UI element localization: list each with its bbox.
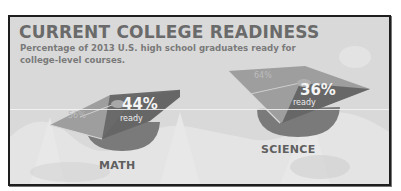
science-cap-chart: 64% 36% ready [220, 61, 370, 141]
math-label: MATH [99, 159, 136, 172]
infographic-card: CURRENT COLLEGE READINESS Percentage of … [8, 15, 391, 186]
science-not-ready-value: 64% [254, 71, 272, 80]
scan-line-artifact [10, 109, 389, 110]
chart-title: CURRENT COLLEGE READINESS [19, 22, 319, 42]
math-not-ready-value: 56% [68, 111, 86, 120]
science-label: SCIENCE [261, 143, 316, 156]
science-ready-value: 36% [300, 83, 336, 98]
math-ready-label: ready [120, 114, 143, 123]
math-cap-chart: 56% 44% ready [50, 77, 180, 157]
science-ready-label: ready [293, 98, 316, 107]
